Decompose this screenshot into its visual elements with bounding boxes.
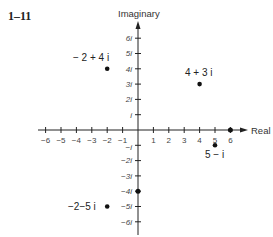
svg-text:5i: 5i xyxy=(126,49,132,58)
point-label: 5 − i xyxy=(205,149,224,160)
svg-text:6i: 6i xyxy=(126,34,132,43)
svg-text:−6i: −6i xyxy=(121,218,132,227)
svg-text:2i: 2i xyxy=(125,95,132,104)
real-axis-title: Real xyxy=(251,125,271,136)
svg-text:3: 3 xyxy=(182,136,187,145)
point-neg2-minus-5i xyxy=(105,204,110,209)
point-label: 4 + 3 i xyxy=(185,67,213,78)
svg-text:−5: −5 xyxy=(56,136,66,145)
x-tick-labels: −6 −5 −4 −3 −2 −1 1 2 3 4 5 6 xyxy=(41,136,233,145)
svg-text:−3i: −3i xyxy=(121,172,132,181)
complex-plane: Real Imaginary −6 −5 −4 −3 −2 −1 1 2 3 4… xyxy=(0,0,273,237)
imaginary-axis-title: Imaginary xyxy=(118,8,160,19)
point-5-minus-i xyxy=(213,143,218,148)
svg-text:i: i xyxy=(130,111,132,120)
svg-text:−4: −4 xyxy=(72,136,82,145)
real-axis-arrow-icon xyxy=(240,128,248,133)
svg-text:6: 6 xyxy=(228,136,233,145)
data-points: − 2 + 4 i 4 + 3 i 5 − i −2−5 i xyxy=(68,52,233,212)
svg-text:−4i: −4i xyxy=(121,187,132,196)
point-label: −2−5 i xyxy=(68,201,96,212)
point-4-plus-3i xyxy=(197,82,202,87)
svg-text:−2i: −2i xyxy=(121,156,132,165)
svg-text:−2: −2 xyxy=(103,136,113,145)
point-neg-4i xyxy=(136,189,141,194)
point-6 xyxy=(228,128,233,133)
svg-text:−5i: −5i xyxy=(121,202,132,211)
svg-text:−i: −i xyxy=(126,143,133,152)
svg-text:3i: 3i xyxy=(126,80,132,89)
svg-text:2: 2 xyxy=(167,136,172,145)
point-neg2-plus-4i xyxy=(105,67,110,72)
svg-text:1: 1 xyxy=(151,136,156,145)
svg-text:4: 4 xyxy=(197,136,202,145)
point-label: − 2 + 4 i xyxy=(73,52,109,63)
svg-text:−3: −3 xyxy=(87,136,97,145)
svg-text:4i: 4i xyxy=(126,65,132,74)
svg-text:−6: −6 xyxy=(41,136,51,145)
imaginary-axis-arrow-icon xyxy=(136,21,141,29)
